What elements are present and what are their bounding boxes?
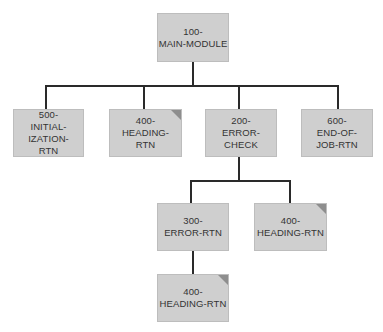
node-label: 300- ERROR-RTN [164, 215, 222, 239]
connector-main-down [192, 62, 194, 87]
node-400-heading-rtn-under-300: 400- HEADING-RTN [157, 274, 229, 322]
node-label: 100- MAIN-MODULE [159, 26, 228, 50]
predefined-process-corner-icon [171, 110, 181, 120]
connector-level2-horizontal [190, 180, 291, 182]
node-400-heading-rtn-under-200: 400- HEADING-RTN [254, 203, 327, 251]
connector-300-to-400c [192, 251, 194, 274]
connector-to-200 [238, 85, 240, 109]
node-label: 500- INITIAL- IZATION- RTN [28, 109, 69, 157]
connector-level1-horizontal [45, 85, 339, 87]
node-label: 200- ERROR- CHECK [222, 115, 260, 151]
node-600-end-of-job-rtn: 600- END-OF- JOB-RTN [301, 109, 373, 157]
predefined-process-corner-icon [316, 204, 326, 214]
connector-to-400a [143, 85, 145, 109]
node-300-error-rtn: 300- ERROR-RTN [157, 203, 229, 251]
node-label: 400- HEADING-RTN [160, 286, 227, 310]
node-200-error-check: 200- ERROR- CHECK [205, 109, 277, 157]
connector-to-600 [337, 85, 339, 109]
predefined-process-corner-icon [218, 275, 228, 285]
connector-to-500 [45, 85, 47, 109]
node-label: 600- END-OF- JOB-RTN [316, 115, 358, 151]
node-400-heading-rtn: 400- HEADING- RTN [109, 109, 182, 157]
node-500-initialization-rtn: 500- INITIAL- IZATION- RTN [13, 109, 84, 157]
connector-to-400b [289, 180, 291, 203]
node-label: 400- HEADING-RTN [257, 215, 324, 239]
connector-200-down [238, 157, 240, 182]
node-100-main-module: 100- MAIN-MODULE [157, 13, 229, 62]
connector-to-300 [190, 180, 192, 203]
node-label: 400- HEADING- RTN [122, 115, 169, 151]
